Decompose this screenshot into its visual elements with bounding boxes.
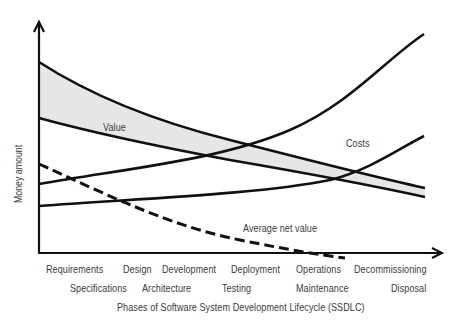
- y-axis-label: Money amount: [13, 145, 24, 203]
- phase-maintenance: Maintenance: [296, 282, 349, 294]
- phase-decommissioning: Decommissioning: [354, 263, 427, 275]
- average-net-value-curve: [39, 164, 345, 258]
- costs-label: Costs: [346, 137, 370, 149]
- ssdlc-diagram: [0, 0, 460, 327]
- phase-design: Design: [123, 263, 152, 275]
- x-axis-label: Phases of Software System Development Li…: [117, 301, 365, 313]
- phase-operations: Operations: [296, 263, 341, 275]
- phase-specifications: Specifications: [70, 282, 127, 294]
- phase-deployment: Deployment: [231, 263, 280, 275]
- phase-disposal: Disposal: [391, 282, 426, 294]
- phase-requirements: Requirements: [46, 263, 103, 275]
- average-net-value-label: Average net value: [243, 222, 317, 234]
- phase-architecture: Architecture: [142, 282, 191, 294]
- phase-testing: Testing: [222, 282, 251, 294]
- value-band: [39, 62, 425, 197]
- phase-development: Development: [162, 263, 216, 275]
- value-label: Value: [103, 121, 126, 133]
